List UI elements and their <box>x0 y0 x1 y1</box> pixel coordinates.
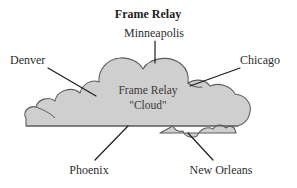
cloud-label-line1: Frame Relay <box>118 85 177 97</box>
node-label-denver: Denver <box>10 54 45 66</box>
leader-line-new-orleans <box>188 133 213 160</box>
diagram-title: Frame Relay <box>115 8 181 20</box>
node-label-new-orleans: New Orleans <box>190 164 253 176</box>
node-label-chicago: Chicago <box>240 54 280 66</box>
frame-relay-diagram: Frame Relay Minneapolis Denver Chicago P… <box>0 0 297 188</box>
cloud-label-line2: "Cloud" <box>129 100 167 112</box>
frame-relay-cloud-shape <box>25 58 251 137</box>
cloud-lower-bump <box>160 125 236 137</box>
node-label-phoenix: Phoenix <box>69 164 108 176</box>
node-label-minneapolis: Minneapolis <box>124 27 184 39</box>
leader-line-chicago <box>190 68 240 86</box>
leader-line-phoenix <box>95 126 128 160</box>
